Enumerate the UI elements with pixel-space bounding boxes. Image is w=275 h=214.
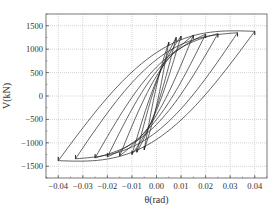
y-axis-ticks: −1500−1000−500050010001500 <box>21 14 49 178</box>
hysteresis-chart: −0.04−0.03−0.02−0.010.000.010.020.030.04… <box>0 0 275 214</box>
x-tick-label: 0.02 <box>198 181 213 191</box>
y-tick-label: −1500 <box>21 161 43 171</box>
x-tick-label: −0.04 <box>48 181 68 191</box>
y-tick-label: 1500 <box>26 21 43 31</box>
x-tick-label: 0.01 <box>174 181 189 191</box>
y-tick-label: 0 <box>39 91 43 101</box>
y-tick-label: −500 <box>25 114 43 124</box>
hysteresis-loop <box>120 35 194 156</box>
y-axis-label: V(kN) <box>1 83 13 109</box>
x-axis-ticks: −0.04−0.03−0.02−0.010.000.010.020.030.04 <box>46 175 267 191</box>
x-tick-label: −0.01 <box>122 181 142 191</box>
y-tick-label: −1000 <box>21 138 43 148</box>
y-tick-label: 1000 <box>26 44 43 54</box>
y-tick-label: 500 <box>30 68 43 78</box>
x-tick-label: 0.00 <box>149 181 164 191</box>
x-axis-label: θ(rad) <box>144 194 168 206</box>
x-tick-label: 0.03 <box>223 181 238 191</box>
x-tick-label: −0.03 <box>73 181 93 191</box>
x-tick-label: 0.04 <box>247 181 263 191</box>
x-tick-label: −0.02 <box>98 181 118 191</box>
